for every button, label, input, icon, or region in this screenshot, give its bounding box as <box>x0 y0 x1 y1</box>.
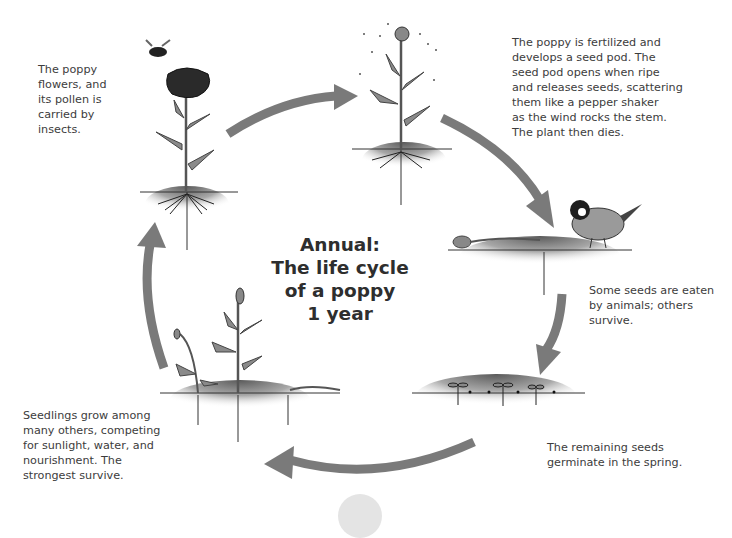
diagram-title: Annual: The life cycle of a poppy 1 year <box>270 233 410 325</box>
arrow-eaten-to-germination <box>546 294 562 350</box>
caption-seed-pod: The poppy is fertilized and develops a s… <box>512 35 683 140</box>
arrowhead-1 <box>334 84 358 110</box>
page-number-badge <box>338 494 382 538</box>
germination-illustration <box>412 374 585 418</box>
arrowhead-3 <box>536 344 561 375</box>
arrow-germination-to-seedlings <box>290 442 474 469</box>
arrowhead-4 <box>264 446 294 479</box>
caption-germination: The remaining seeds germinate in the spr… <box>547 440 682 470</box>
caption-flowering: The poppy flowers, and its pollen is car… <box>38 62 107 137</box>
arrowhead-5 <box>137 222 166 248</box>
bee-icon <box>149 47 167 57</box>
caption-seeds-eaten: Some seeds are eaten by animals; others … <box>589 283 714 328</box>
arrow-seedlings-to-flowering <box>147 245 164 368</box>
seed-pod-illustration <box>352 23 452 205</box>
flowering-poppy-illustration <box>140 40 238 250</box>
caption-seedlings: Seedlings grow among many others, compet… <box>23 408 160 483</box>
arrow-flowering-to-seedpod <box>228 96 336 134</box>
